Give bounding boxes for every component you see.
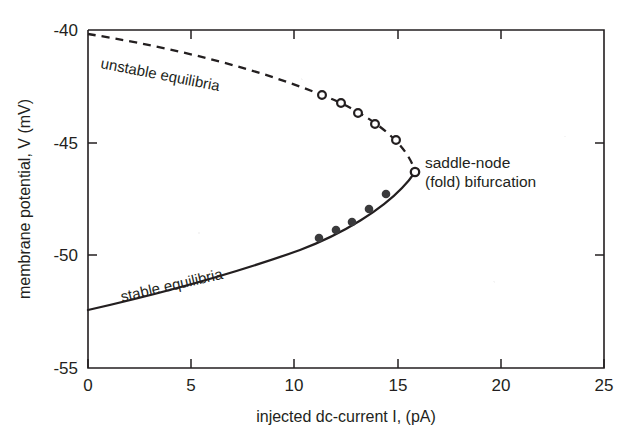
x-tick-label-15: 15 — [389, 376, 408, 395]
unstable-equilibria-branch — [88, 34, 415, 172]
y-tick-label-minus50: -50 — [53, 246, 78, 265]
y-tick-labels: -40 -45 -50 -55 — [53, 21, 78, 378]
x-tick-label-25: 25 — [595, 376, 614, 395]
stable-marker-point — [365, 205, 374, 214]
bifurcation-diagram-figure: 0 5 10 15 20 25 -40 -45 -50 -55 injected… — [0, 0, 642, 440]
unstable-marker-point — [318, 91, 326, 99]
stable-marker-point — [382, 190, 391, 199]
stable-marker-point — [348, 218, 357, 227]
x-tick-label-0: 0 — [83, 376, 92, 395]
x-tick-label-10: 10 — [285, 376, 304, 395]
bifurcation-annotation-line2: (fold) bifurcation — [425, 173, 536, 190]
y-tick-label-minus40: -40 — [53, 21, 78, 40]
unstable-equilibria-label: unstable equilibria — [99, 54, 222, 94]
unstable-marker-point — [392, 136, 400, 144]
stable-marker-point — [332, 226, 341, 235]
x-tick-labels: 0 5 10 15 20 25 — [83, 376, 613, 395]
stable-equilibria-label: stable equilibria — [119, 265, 225, 305]
bifurcation-annotation: saddle-node (fold) bifurcation — [425, 154, 536, 190]
x-axis-title: injected dc-current I, (pA) — [256, 408, 436, 425]
y-axis-ticks — [88, 143, 604, 255]
unstable-equilibria-curve — [88, 34, 415, 172]
bifurcation-annotation-line1: saddle-node — [425, 154, 510, 171]
stable-marker-point — [315, 234, 324, 243]
y-axis-title: membrane potential, V (mV) — [16, 99, 33, 299]
saddle-node-bifurcation-point — [411, 168, 419, 176]
plot-svg: 0 5 10 15 20 25 -40 -45 -50 -55 injected… — [0, 0, 642, 440]
x-tick-label-20: 20 — [492, 376, 511, 395]
stable-marker-group — [315, 190, 391, 243]
y-tick-label-minus45: -45 — [53, 134, 78, 153]
unstable-marker-point — [354, 109, 362, 117]
unstable-marker-point — [371, 120, 379, 128]
y-tick-label-minus55: -55 — [53, 359, 78, 378]
unstable-marker-group — [318, 91, 400, 144]
unstable-marker-point — [337, 99, 345, 107]
x-tick-label-5: 5 — [186, 376, 195, 395]
